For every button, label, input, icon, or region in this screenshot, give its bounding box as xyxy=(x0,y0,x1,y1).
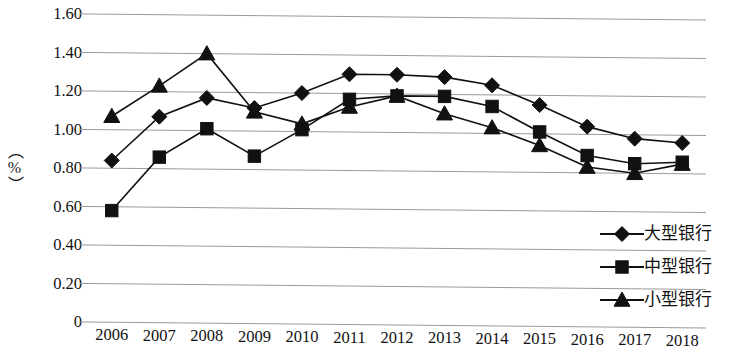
gridline xyxy=(88,207,706,213)
data-point-marker xyxy=(627,131,642,146)
data-point-marker xyxy=(153,151,165,163)
chart-legend: 大型银行中型银行小型银行 xyxy=(600,217,730,317)
data-point-marker xyxy=(532,137,548,151)
y-axis-tick-label: 0.80 xyxy=(30,160,82,176)
series-1 xyxy=(104,67,689,168)
data-point-marker xyxy=(199,46,215,60)
series-2 xyxy=(106,90,689,217)
data-point-marker xyxy=(106,204,118,216)
data-point-marker xyxy=(580,119,595,134)
y-axis-tick-label: 1.20 xyxy=(30,83,82,99)
y-axis-tick-label: 1.60 xyxy=(30,6,82,22)
legend-item-1[interactable]: 大型银行 xyxy=(600,217,730,250)
y-axis-title: （%） xyxy=(0,112,28,222)
y-axis-tick-label: 0.20 xyxy=(30,276,82,292)
y-axis-tick-labels: 00.200.400.600.801.001.201.401.60 xyxy=(30,0,82,351)
data-point-marker xyxy=(437,70,452,85)
legend-item-3[interactable]: 小型银行 xyxy=(600,283,730,316)
triangle-marker-icon xyxy=(600,290,644,310)
diamond-marker-icon xyxy=(600,224,644,244)
x-axis-tick-label: 2018 xyxy=(652,330,712,351)
line-chart: （%） 00.200.400.600.801.001.201.401.60 20… xyxy=(0,0,736,351)
data-point-marker xyxy=(342,67,357,82)
data-point-marker xyxy=(151,78,167,92)
series-line xyxy=(112,96,682,211)
legend-item-label: 大型银行 xyxy=(644,224,712,244)
y-axis-tick-label: 0.60 xyxy=(30,199,82,215)
data-point-marker xyxy=(438,90,450,102)
legend-item-2[interactable]: 中型银行 xyxy=(600,250,730,283)
gridline xyxy=(88,53,706,59)
data-point-marker xyxy=(437,106,453,120)
x-axis-tick-labels: 2006200720082009201020112012201320142015… xyxy=(88,324,706,351)
legend-item-label: 中型银行 xyxy=(644,257,712,277)
y-axis-tick-label: 0.40 xyxy=(30,237,82,253)
data-point-marker xyxy=(486,100,498,112)
data-point-marker xyxy=(533,126,545,138)
data-point-marker xyxy=(248,150,260,162)
series-3 xyxy=(104,46,690,180)
data-point-marker xyxy=(201,123,213,135)
legend-item-label: 小型银行 xyxy=(644,290,712,310)
data-point-marker xyxy=(675,135,690,150)
y-axis-tick-label: 0 xyxy=(30,314,82,330)
gridline xyxy=(88,14,706,20)
data-point-marker xyxy=(390,67,405,82)
y-axis-tick-label: 1.40 xyxy=(30,45,82,61)
data-point-marker xyxy=(294,86,309,101)
data-point-marker xyxy=(485,78,500,93)
y-axis-tick-label: 1.00 xyxy=(30,122,82,138)
square-marker-icon xyxy=(600,257,644,277)
data-point-marker xyxy=(532,98,547,113)
data-point-marker xyxy=(104,108,120,122)
